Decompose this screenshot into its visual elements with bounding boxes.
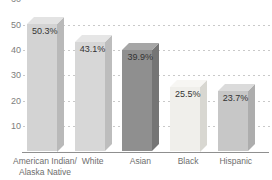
y-axis-tick-label: 20 [1, 96, 21, 105]
bar-side-face [57, 17, 64, 152]
bar-chart: 10203040506050.3%43.1%39.9%25.5%23.7%Ame… [0, 0, 272, 180]
y-axis-tick-label: 50 [1, 20, 21, 29]
y-axis-tick-label: 40 [1, 45, 21, 54]
bar-side-face [248, 84, 255, 151]
x-axis-line [22, 152, 269, 153]
bar-value-label: 43.1% [80, 45, 106, 54]
y-axis-tick-label: 10 [1, 122, 21, 131]
bar-value-label: 23.7% [223, 94, 249, 103]
bar-value-label: 25.5% [175, 90, 201, 99]
plot-area: 10203040506050.3%43.1%39.9%25.5%23.7%Ame… [0, 0, 272, 180]
bar [27, 24, 57, 152]
bar [122, 50, 152, 151]
bar-value-label: 50.3% [32, 27, 58, 36]
y-axis-tick-label: 60 [1, 0, 21, 4]
bar [75, 42, 105, 151]
bar-side-face [152, 43, 159, 151]
y-axis-tick-label: 30 [1, 71, 21, 80]
bar-side-face [200, 80, 207, 152]
bar-side-face [105, 35, 112, 151]
x-axis-category-label: Hispanic [181, 156, 272, 167]
bar-value-label: 39.9% [127, 53, 153, 62]
